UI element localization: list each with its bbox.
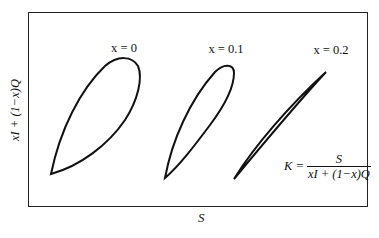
label-x-0.2: x = 0.2: [313, 43, 348, 58]
y-axis-label: xI + (1−x)Q: [8, 79, 23, 141]
formula-denominator: xI + (1−x)Q: [308, 167, 370, 181]
formula-fraction: S xI + (1−x)Q: [308, 152, 370, 181]
hysteresis-loops: [0, 0, 379, 238]
x-axis-label: S: [198, 210, 205, 226]
label-x-0.1: x = 0.1: [208, 42, 243, 57]
formula-lhs: K =: [284, 159, 304, 174]
formula-k: K = S xI + (1−x)Q: [284, 152, 370, 181]
label-x-0: x = 0: [111, 41, 137, 56]
loop-x-0.1: [165, 66, 234, 178]
loop-x-0: [51, 58, 140, 174]
formula-numerator: S: [307, 152, 371, 167]
